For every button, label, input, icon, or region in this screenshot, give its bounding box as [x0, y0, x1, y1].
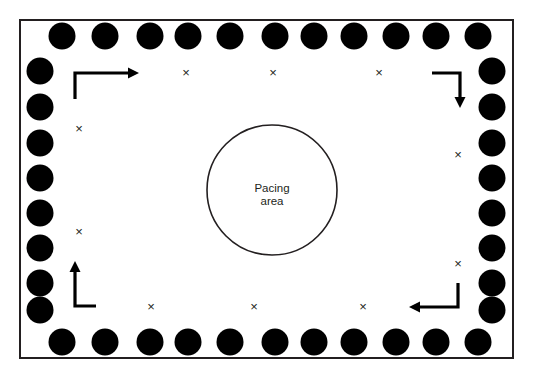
x-marker: × — [269, 65, 277, 80]
chair-dot — [465, 329, 492, 356]
chair-dot — [479, 235, 506, 262]
chair-dot — [27, 130, 54, 157]
diagram-canvas: Pacing area ×××××××××× — [0, 0, 533, 378]
chair-dot — [479, 200, 506, 227]
x-marker: × — [375, 65, 383, 80]
chair-dot — [341, 23, 368, 50]
pacing-area-label-line1: Pacing — [254, 182, 289, 194]
chair-dot — [341, 329, 368, 356]
x-marker: × — [182, 65, 190, 80]
x-marker: × — [75, 224, 83, 239]
chair-dot — [137, 329, 164, 356]
chair-dot — [423, 23, 450, 50]
chair-dot — [383, 329, 410, 356]
chair-dot — [92, 23, 119, 50]
chair-dot — [92, 329, 119, 356]
chair-dot — [383, 23, 410, 50]
pacing-area-label-line2: area — [260, 195, 284, 207]
x-marker: × — [454, 256, 462, 271]
chair-dot — [479, 58, 506, 85]
x-marker: × — [250, 299, 258, 314]
chair-dot — [479, 297, 506, 324]
x-marker: × — [359, 299, 367, 314]
chair-dot — [27, 270, 54, 297]
chair-dot — [27, 200, 54, 227]
chair-dot — [479, 94, 506, 121]
chair-dot — [465, 23, 492, 50]
x-marker: × — [454, 147, 462, 162]
chair-dot — [137, 23, 164, 50]
chair-dot — [49, 23, 76, 50]
x-marker: × — [75, 121, 83, 136]
chair-dot — [217, 329, 244, 356]
x-marker: × — [147, 299, 155, 314]
chair-dot — [27, 94, 54, 121]
chair-dot — [262, 329, 289, 356]
chair-dot — [217, 23, 244, 50]
chair-dot — [262, 23, 289, 50]
chair-dot — [27, 58, 54, 85]
chair-dot — [175, 329, 202, 356]
chair-dot — [175, 23, 202, 50]
chair-dot — [301, 329, 328, 356]
room-layout-diagram: Pacing area ×××××××××× — [0, 0, 533, 378]
chair-dot — [479, 270, 506, 297]
chair-dot — [301, 23, 328, 50]
chair-dot — [479, 165, 506, 192]
chair-dot — [479, 130, 506, 157]
chair-dot — [27, 235, 54, 262]
chair-dot — [423, 329, 450, 356]
chair-dot — [49, 329, 76, 356]
chair-dot — [27, 297, 54, 324]
chair-dot — [27, 165, 54, 192]
